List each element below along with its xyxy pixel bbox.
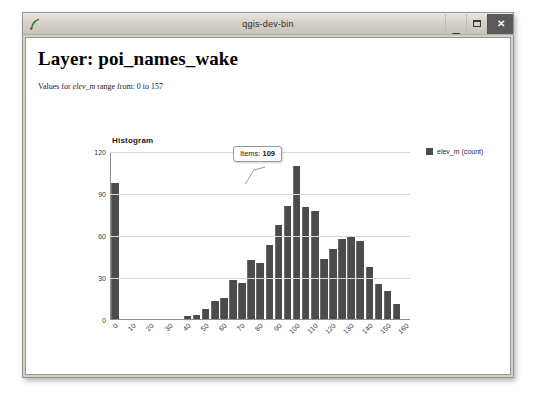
histogram-bar[interactable]	[193, 315, 201, 319]
histogram-bar[interactable]	[256, 263, 264, 319]
window-title: qgis-dev-bin	[23, 19, 513, 29]
maximize-icon[interactable]	[466, 14, 487, 34]
minimize-icon[interactable]	[445, 14, 466, 34]
histogram-bar[interactable]	[275, 225, 283, 319]
chart-title: Histogram	[112, 136, 153, 145]
histogram-bar[interactable]	[329, 249, 337, 319]
histogram-bar[interactable]	[111, 183, 119, 319]
histogram-bar[interactable]	[211, 301, 219, 319]
gridline	[110, 236, 410, 237]
tooltip: Items: 109	[233, 146, 282, 162]
histogram-bar[interactable]	[238, 283, 246, 319]
histogram-bar[interactable]	[311, 211, 319, 319]
x-tick-label: 160	[374, 322, 410, 358]
y-tick-label: 0	[84, 317, 106, 324]
report-content: Layer: poi_names_wake Values for elev_m …	[25, 37, 511, 375]
gridline	[110, 194, 410, 195]
histogram-bar[interactable]	[284, 206, 292, 319]
histogram-bar[interactable]	[302, 207, 310, 319]
subtitle-suffix: range from: 0 to 157	[95, 82, 163, 91]
histogram-bar[interactable]	[356, 241, 364, 319]
histogram-bar[interactable]	[247, 260, 255, 319]
page-title: Layer: poi_names_wake	[38, 48, 510, 70]
tooltip-label: Items:	[240, 149, 260, 158]
close-icon[interactable]: ✕	[487, 14, 513, 34]
histogram-chart: Histogram elev_m (count) 0306090120 0102…	[26, 134, 510, 374]
application-window: qgis-dev-bin ✕ Layer: poi_names_wake Val…	[22, 12, 514, 378]
value-range-text: Values for elev_m range from: 0 to 157	[38, 82, 510, 91]
subtitle-field-name: elev_m	[73, 82, 96, 91]
histogram-bar[interactable]	[184, 316, 192, 319]
y-tick-label: 60	[84, 233, 106, 240]
x-axis: 0102030405060708090100110120130140150160	[110, 322, 410, 364]
subtitle-prefix: Values for	[38, 82, 73, 91]
histogram-bar[interactable]	[293, 166, 301, 319]
tooltip-value: 109	[263, 149, 276, 158]
title-bar[interactable]: qgis-dev-bin ✕	[23, 13, 513, 35]
qgis-icon	[28, 17, 42, 31]
histogram-bar[interactable]	[229, 280, 237, 319]
window-controls: ✕	[445, 13, 513, 34]
histogram-bar[interactable]	[338, 239, 346, 319]
histogram-bar[interactable]	[384, 291, 392, 319]
plot-area: 0306090120 01020304050607080901001101201…	[26, 152, 510, 367]
tooltip-pointer	[244, 164, 266, 186]
x-axis-line	[110, 319, 410, 320]
histogram-bar[interactable]	[393, 304, 401, 319]
histogram-bar[interactable]	[320, 259, 328, 319]
gridline	[110, 278, 410, 279]
histogram-bar[interactable]	[366, 267, 374, 319]
histogram-bar[interactable]	[375, 284, 383, 319]
histogram-bar[interactable]	[266, 245, 274, 319]
y-axis: 0306090120	[82, 152, 106, 320]
y-tick-label: 90	[84, 191, 106, 198]
y-tick-label: 30	[84, 275, 106, 282]
histogram-bar[interactable]	[220, 298, 228, 319]
y-tick-label: 120	[84, 149, 106, 156]
histogram-bar[interactable]	[202, 309, 210, 319]
